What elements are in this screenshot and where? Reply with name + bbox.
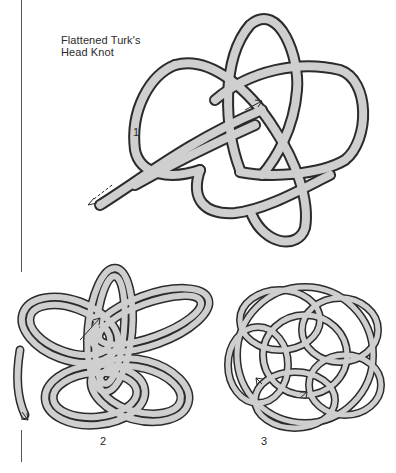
step-label-3: 3 xyxy=(261,435,267,447)
knot-step-1 xyxy=(88,19,363,242)
knot-step-2 xyxy=(13,266,217,432)
step-label-1: 1 xyxy=(133,126,139,138)
step-label-2: 2 xyxy=(100,435,106,447)
knot-step-3 xyxy=(228,287,381,428)
knot-illustrations xyxy=(0,0,396,473)
